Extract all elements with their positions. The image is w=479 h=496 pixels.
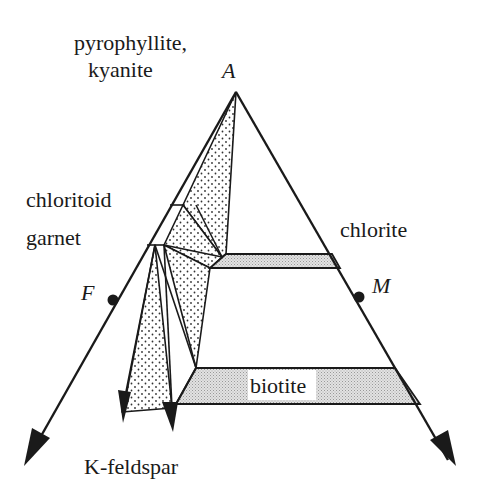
chlorite-band [210,254,340,268]
label-chlorite: chlorite [340,217,407,242]
label-chloritoid: chloritoid [26,187,112,212]
label-kfeldspar: K-feldspar [84,454,179,479]
arrow-left-icon [24,428,50,466]
label-F: F [80,280,95,305]
point-M-icon [354,292,365,303]
label-M: M [371,273,392,298]
label-A: A [220,58,236,83]
label-kyanite: kyanite [88,57,153,82]
label-pyrophyllite: pyrophyllite, [74,30,187,55]
afm-diagram: pyrophyllite, kyanite A chloritoid garne… [0,0,479,496]
label-biotite: biotite [250,373,306,398]
point-F-icon [108,295,119,306]
label-garnet: garnet [26,225,81,250]
arrow-kfs2-icon [162,402,178,432]
